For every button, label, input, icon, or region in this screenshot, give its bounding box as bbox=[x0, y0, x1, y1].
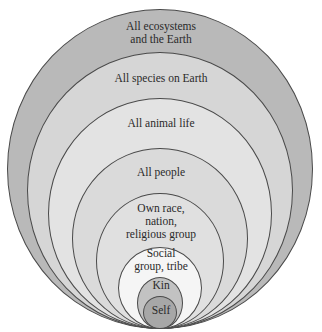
nested-circles-diagram: All ecosystems and the Earth All species… bbox=[0, 0, 322, 332]
label-line: All animal life bbox=[0, 117, 322, 130]
label-line: nation, bbox=[0, 215, 322, 228]
label-animal: All animal life bbox=[0, 117, 322, 130]
label-line: All people bbox=[0, 166, 322, 179]
label-kin: Kin bbox=[0, 279, 322, 292]
label-line: Social bbox=[0, 247, 322, 260]
label-line: religious group bbox=[0, 228, 322, 241]
label-own-race: Own race, nation, religious group bbox=[0, 202, 322, 241]
label-line: Self bbox=[0, 304, 322, 317]
label-ecosystems: All ecosystems and the Earth bbox=[0, 20, 322, 46]
label-line: group, tribe bbox=[0, 260, 322, 273]
label-people: All people bbox=[0, 166, 322, 179]
label-social: Social group, tribe bbox=[0, 247, 322, 273]
label-line: and the Earth bbox=[0, 33, 322, 46]
label-species: All species on Earth bbox=[0, 72, 322, 85]
label-line: All species on Earth bbox=[0, 72, 322, 85]
label-self: Self bbox=[0, 304, 322, 317]
label-line: All ecosystems bbox=[0, 20, 322, 33]
label-line: Own race, bbox=[0, 202, 322, 215]
label-line: Kin bbox=[0, 279, 322, 292]
